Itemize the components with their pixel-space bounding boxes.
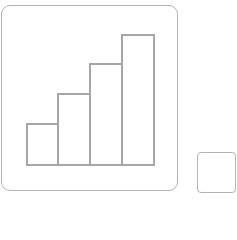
chart-bar-3 [89, 63, 123, 166]
small-square-tile[interactable] [197, 152, 236, 193]
chart-bar-1 [26, 123, 59, 166]
chart-bar-4 [121, 34, 155, 166]
chart-bar-2 [57, 93, 91, 166]
